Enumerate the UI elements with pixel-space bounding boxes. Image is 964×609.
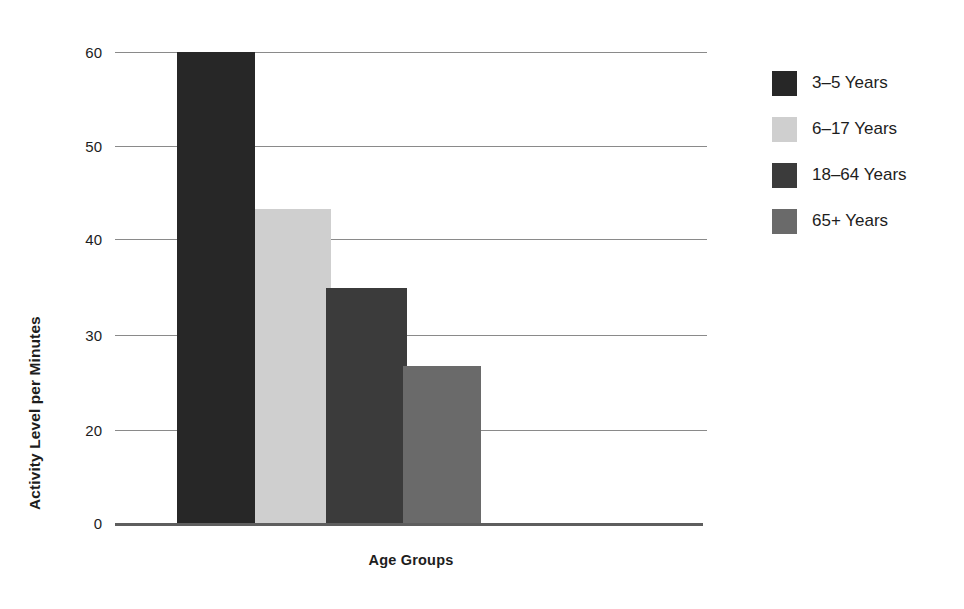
y-axis-tick-labels: 60504030200: [40, 40, 102, 540]
legend-swatch-18-64-years: [772, 163, 797, 188]
plot-area: [115, 40, 707, 540]
y-axis-tick-label: 50: [42, 138, 102, 155]
legend-item-label: 65+ Years: [812, 208, 888, 234]
chart-legend: 3–5 Years6–17 Years18–64 Years65+ Years: [772, 63, 957, 247]
legend-item: 18–64 Years: [772, 155, 957, 201]
y-axis-tick-label: 40: [42, 231, 102, 248]
legend-item: 6–17 Years: [772, 109, 957, 155]
legend-item-label: 18–64 Years: [812, 162, 907, 188]
bar-18-64-years: [326, 288, 407, 524]
legend-item-label: 3–5 Years: [812, 70, 888, 96]
bar-3-5-years: [177, 52, 255, 523]
axis-baseline: [115, 523, 703, 526]
bar-65-years: [403, 366, 481, 523]
legend-swatch-6-17-years: [772, 117, 797, 142]
legend-swatch-65-plus-years: [772, 209, 797, 234]
bar-6-17-years: [255, 209, 331, 523]
y-axis-tick-label: 20: [42, 422, 102, 439]
legend-item: 65+ Years: [772, 201, 957, 247]
legend-item: 3–5 Years: [772, 63, 957, 109]
y-axis-tick-label: 60: [42, 44, 102, 61]
x-axis-title: Age Groups: [115, 552, 707, 568]
y-axis-tick-label: 0: [42, 515, 102, 532]
bar-chart-figure: Activity Level per Minutes 60504030200 A…: [0, 0, 964, 609]
legend-swatch-3-5-years: [772, 71, 797, 96]
y-axis-tick-label: 30: [42, 327, 102, 344]
legend-item-label: 6–17 Years: [812, 116, 897, 142]
